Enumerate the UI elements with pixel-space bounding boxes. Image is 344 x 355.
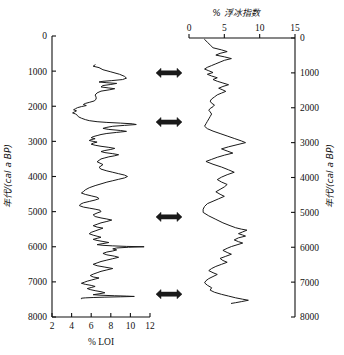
left-x-tick-label: 10 [126,321,136,331]
paleoclimate-figure: 010002000300040005000600070008000 246810… [0,0,344,355]
right-y-tick-label: 3000 [300,138,319,148]
left-y-tick-label: 6000 [28,242,47,252]
right-y-tick-label: 0 [300,33,305,43]
right-y-tick-label: 6000 [300,243,319,253]
left-x-tick-label: 4 [69,321,74,331]
left-y-tick-label: 4000 [28,172,47,182]
left-y-axis-title: 年代/(cal a BP) [3,144,13,208]
right-y-tick-label: 4000 [300,173,319,183]
left-y-tick-label: 3000 [28,137,47,147]
right-x-tick-label: 5 [222,23,227,33]
right-x-tick-label: 15 [290,23,300,33]
right-y-tick-labels: 010002000300040005000600070008000 [300,33,319,322]
left-x-tick-label: 12 [145,321,155,331]
right-y-axis-title: 年代/(cal a BP) [325,144,335,208]
right-y-tick-label: 5000 [300,208,319,218]
right-x-tick-label: 0 [187,23,192,33]
left-y-tick-label: 8000 [28,312,47,322]
right-y-tick-label: 7000 [300,278,319,288]
right-y-tick-label: 8000 [300,312,319,322]
left-x-tick-label: 8 [108,321,113,331]
left-y-tick-labels: 010002000300040005000600070008000 [28,31,47,322]
left-x-tick-label: 2 [50,321,55,331]
right-x-axis-title: % 浮冰指数 [212,8,260,18]
left-x-axis-title: % LOI [88,337,114,347]
left-y-tick-label: 7000 [28,277,47,287]
chart-canvas: 010002000300040005000600070008000 246810… [0,0,344,355]
right-x-tick-label: 10 [255,23,265,33]
left-y-tick-label: 2000 [28,102,47,112]
right-y-tick-label: 2000 [300,103,319,113]
left-x-tick-label: 6 [89,321,94,331]
left-y-tick-label: 5000 [28,207,47,217]
left-y-tick-label: 1000 [28,67,47,77]
right-y-tick-label: 1000 [300,68,319,78]
left-y-tick-label: 0 [42,31,47,41]
